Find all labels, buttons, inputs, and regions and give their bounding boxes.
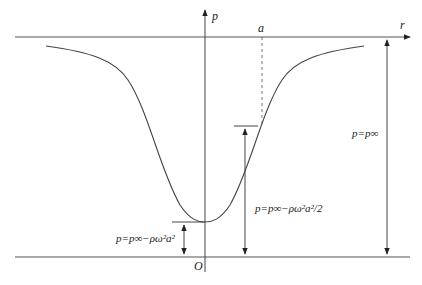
r-axis-label: r xyxy=(400,18,405,32)
origin-label: O xyxy=(194,259,203,273)
pressure-distribution-diagram: p r a O p=p∞ p=p∞−ρω²a²/2 p=p∞−ρω²a² xyxy=(0,0,422,285)
center-pressure-label: p=p∞−ρω²a² xyxy=(115,232,176,244)
radius-a-label: a xyxy=(258,21,264,35)
radius-a-pressure-label: p=p∞−ρω²a²/2 xyxy=(254,202,323,214)
far-field-label: p=p∞ xyxy=(351,127,378,139)
p-axis-label: p xyxy=(211,9,218,23)
